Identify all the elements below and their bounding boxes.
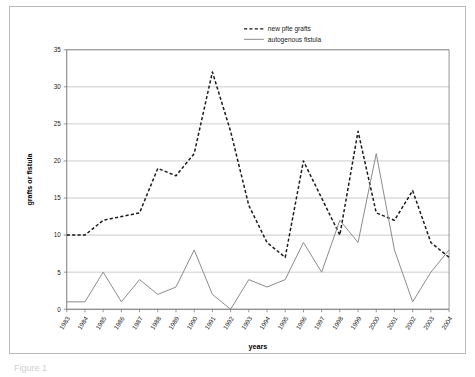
legend-label-0: new pfte grafts xyxy=(268,25,312,33)
x-axis-tick-label: 1993 xyxy=(240,315,254,331)
x-axis-title: years xyxy=(249,343,268,351)
chart-canvas: 05101520253035 1983198419851986198719881… xyxy=(10,7,465,353)
series-line-0 xyxy=(67,72,449,257)
figure-frame: 05101520253035 1983198419851986198719881… xyxy=(9,6,466,354)
legend-label-1: autogenous fistula xyxy=(268,36,322,44)
y-axis-tick-label: 30 xyxy=(54,83,62,90)
x-axis-tick-label: 1998 xyxy=(331,315,345,331)
x-axis-tick-label: 1994 xyxy=(258,315,272,331)
y-axis-tick-label: 35 xyxy=(54,46,62,53)
x-axis-tick-label: 2000 xyxy=(367,315,381,331)
legend-group: new pfte graftsautogenous fistula xyxy=(244,25,321,43)
x-axis-tick-label: 1990 xyxy=(185,315,199,331)
x-axis-tick-label: 1996 xyxy=(294,315,308,331)
x-axis-tick-label: 2003 xyxy=(422,315,436,331)
x-axis-tick-label: 2004 xyxy=(440,315,454,331)
x-axis-tick-label: 2001 xyxy=(385,315,399,331)
x-axis-tick-label: 1984 xyxy=(76,315,90,331)
y-axis-tick-label: 0 xyxy=(57,306,61,313)
x-axis-tick-label: 2002 xyxy=(404,315,418,331)
series-group xyxy=(67,72,449,309)
x-axis-tick-label: 1991 xyxy=(203,315,217,331)
x-axis-tick-label: 1985 xyxy=(94,315,108,331)
x-axis-tick-label: 1988 xyxy=(149,315,163,331)
y-axis-tick-label: 15 xyxy=(54,194,62,201)
x-axis-tick-label: 1987 xyxy=(130,315,144,331)
gridlines-group xyxy=(67,50,449,310)
axes-group xyxy=(64,50,449,312)
x-axis-tick-label: 1983 xyxy=(58,315,72,331)
y-axis-title: grafts or fistula xyxy=(26,152,34,205)
series-line-1 xyxy=(67,154,449,310)
line-chart: 05101520253035 1983198419851986198719881… xyxy=(10,7,465,353)
x-axis-tick-label: 1986 xyxy=(112,315,126,331)
figure-caption: Figure 1 xyxy=(14,362,214,375)
y-axis-tick-label: 5 xyxy=(57,269,61,276)
x-axis-tick-label: 1992 xyxy=(221,315,235,331)
x-axis-tick-label: 1995 xyxy=(276,315,290,331)
x-tick-labels-group: 1983198419851986198719881989199019911992… xyxy=(58,315,454,331)
x-axis-tick-label: 1999 xyxy=(349,315,363,331)
y-axis-tick-label: 10 xyxy=(54,232,62,239)
x-axis-tick-label: 1997 xyxy=(313,315,327,331)
y-tick-labels-group: 05101520253035 xyxy=(54,46,62,312)
figure-caption-text: Figure 1 xyxy=(14,362,214,375)
x-axis-tick-label: 1989 xyxy=(167,315,181,331)
y-axis-tick-label: 20 xyxy=(54,157,62,164)
y-axis-tick-label: 25 xyxy=(54,120,62,127)
